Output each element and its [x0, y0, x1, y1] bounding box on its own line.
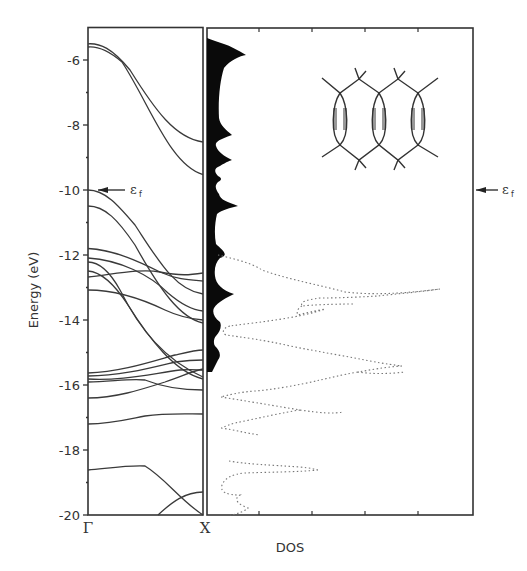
- ytick-label: -14: [59, 313, 80, 328]
- band-line: [88, 414, 203, 424]
- x-axis-title-dos: DOS: [276, 540, 305, 555]
- ytick-label: -10: [59, 183, 80, 198]
- band-line: [88, 369, 203, 398]
- ytick-label: -12: [59, 248, 80, 263]
- fermi-label-right: ε: [502, 182, 509, 197]
- fermi-subscript: f: [139, 190, 142, 199]
- band-line: [88, 47, 203, 175]
- dos-panel: ε f DOS: [207, 28, 514, 555]
- projected-dos-fill: [207, 28, 246, 372]
- arrow-left-icon: [476, 187, 486, 193]
- y-axis-title: Energy (eV): [26, 252, 41, 329]
- band-line: [88, 258, 203, 311]
- ytick-label: -6: [67, 53, 80, 68]
- dos-panel-frame: [207, 28, 473, 515]
- dos-x-ticks: [259, 28, 418, 515]
- total-dos-dotted: [218, 255, 440, 515]
- fermi-level-marker-left: ε f: [98, 182, 142, 199]
- ytick-label: -16: [59, 378, 80, 393]
- band-line: [88, 44, 203, 142]
- band-line: [88, 466, 203, 515]
- k-point-x: X: [200, 519, 211, 537]
- band-line: [158, 492, 203, 515]
- fermi-label: ε: [130, 182, 137, 197]
- ytick-label: -20: [59, 508, 80, 523]
- ytick-label: -8: [67, 118, 80, 133]
- y-tick-labels: -6 -8 -10 -12 -14 -16 -18 -20: [59, 53, 80, 523]
- k-point-gamma: Γ: [83, 519, 93, 537]
- fermi-level-marker-right: ε f: [476, 182, 514, 199]
- band-lines: [88, 44, 203, 515]
- ytick-label: -18: [59, 443, 80, 458]
- polymer-structure-inset: [322, 68, 438, 170]
- fermi-subscript-right: f: [511, 190, 514, 199]
- band-structure-panel: ε f Γ X: [83, 28, 211, 538]
- band-structure-dos-figure: -6 -8 -10 -12 -14 -16 -18 -20 Energy (eV…: [0, 0, 527, 571]
